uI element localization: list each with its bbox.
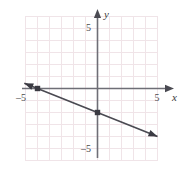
x-tick-label-neg5: –5 bbox=[15, 92, 26, 103]
point-y-intercept bbox=[95, 110, 100, 115]
y-tick-label-pos5: 5 bbox=[86, 22, 91, 33]
graph-svg: –5 5 5 –5 y x bbox=[0, 0, 185, 171]
x-tick-label-pos5: 5 bbox=[155, 92, 160, 103]
y-axis-label: y bbox=[103, 8, 109, 20]
line-right-arrow-icon bbox=[148, 130, 158, 136]
coordinate-plane-figure: –5 5 5 –5 y x bbox=[0, 0, 185, 171]
y-axis-arrow-icon bbox=[94, 9, 101, 18]
plotted-line-group bbox=[24, 83, 157, 136]
plotted-line bbox=[24, 83, 157, 136]
y-tick-label-neg5: –5 bbox=[80, 143, 91, 154]
point-x-intercept bbox=[35, 86, 40, 91]
x-axis-label: x bbox=[171, 91, 177, 103]
